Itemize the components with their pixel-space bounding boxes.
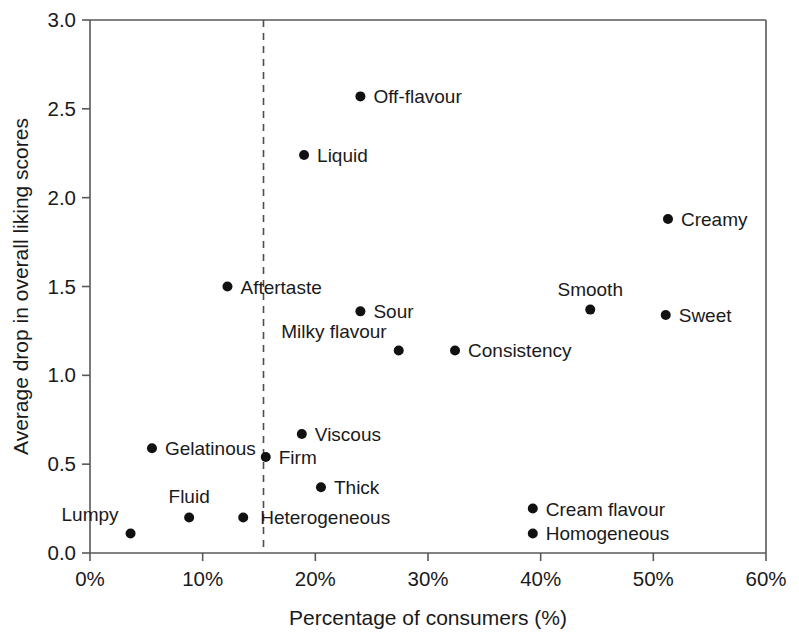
point-marker [663, 214, 673, 224]
data-point: Smooth [557, 279, 622, 315]
chart-canvas: 0.00.51.01.52.02.53.00%10%20%30%40%50%60… [0, 0, 799, 636]
data-point: Off-flavour [355, 86, 462, 107]
point-label: Lumpy [62, 504, 120, 525]
point-marker [355, 91, 365, 101]
x-tick-label: 30% [407, 567, 448, 590]
y-tick-label: 0.0 [48, 541, 77, 564]
data-point: Gelatinous [147, 438, 256, 459]
point-label: Cream flavour [546, 499, 666, 520]
point-marker [528, 528, 538, 538]
y-tick-label: 2.0 [48, 186, 77, 209]
data-point: Milky flavour [281, 321, 404, 355]
point-marker [661, 310, 671, 320]
x-tick-label: 0% [75, 567, 105, 590]
point-label: Sour [373, 301, 414, 322]
x-tick-label: 60% [745, 567, 786, 590]
point-label: Viscous [315, 424, 381, 445]
data-point: Heterogeneous [238, 507, 390, 528]
data-point: Fluid [169, 486, 210, 522]
data-point: Sour [355, 301, 414, 322]
x-axis-title: Percentage of consumers (%) [289, 606, 567, 629]
point-marker [528, 504, 538, 514]
point-marker [261, 452, 271, 462]
point-label: Thick [334, 477, 380, 498]
y-axis-title: Average drop in overall liking scores [9, 118, 32, 455]
data-point: Firm [261, 447, 317, 468]
data-point: Thick [316, 477, 380, 498]
y-tick-label: 2.5 [48, 97, 77, 120]
point-label: Consistency [468, 340, 572, 361]
point-label: Aftertaste [240, 277, 321, 298]
point-marker [238, 512, 248, 522]
point-label: Heterogeneous [260, 507, 390, 528]
point-label: Homogeneous [546, 523, 670, 544]
point-marker [355, 306, 365, 316]
point-marker [126, 528, 136, 538]
y-tick-label: 1.5 [48, 275, 77, 298]
point-marker [450, 345, 460, 355]
point-marker [299, 150, 309, 160]
point-label: Sweet [679, 305, 733, 326]
data-point: Aftertaste [222, 277, 321, 298]
point-marker [316, 482, 326, 492]
data-point: Cream flavour [528, 499, 666, 520]
point-marker [184, 512, 194, 522]
point-marker [394, 345, 404, 355]
point-label: Smooth [557, 279, 622, 300]
point-label: Gelatinous [165, 438, 256, 459]
point-label: Firm [279, 447, 317, 468]
x-tick-label: 50% [633, 567, 674, 590]
y-tick-label: 3.0 [48, 8, 77, 31]
point-label: Fluid [169, 486, 210, 507]
data-points: Off-flavourLiquidCreamyAftertasteSourSmo… [62, 86, 748, 544]
x-tick-label: 40% [520, 567, 561, 590]
data-point: Creamy [663, 209, 748, 230]
point-marker [297, 429, 307, 439]
point-marker [147, 443, 157, 453]
point-label: Milky flavour [281, 321, 387, 342]
x-tick-label: 10% [182, 567, 223, 590]
data-point: Homogeneous [528, 523, 670, 544]
point-label: Off-flavour [373, 86, 462, 107]
scatter-plot-figure: 0.00.51.01.52.02.53.00%10%20%30%40%50%60… [0, 0, 799, 636]
x-tick-label: 20% [295, 567, 336, 590]
point-marker [222, 282, 232, 292]
point-marker [585, 305, 595, 315]
y-tick-label: 0.5 [48, 452, 77, 475]
data-point: Sweet [661, 305, 733, 326]
point-label: Liquid [317, 145, 368, 166]
data-point: Viscous [297, 424, 381, 445]
y-tick-label: 1.0 [48, 363, 77, 386]
point-label: Creamy [681, 209, 748, 230]
data-point: Lumpy [62, 504, 136, 538]
data-point: Liquid [299, 145, 368, 166]
data-point: Consistency [450, 340, 572, 361]
